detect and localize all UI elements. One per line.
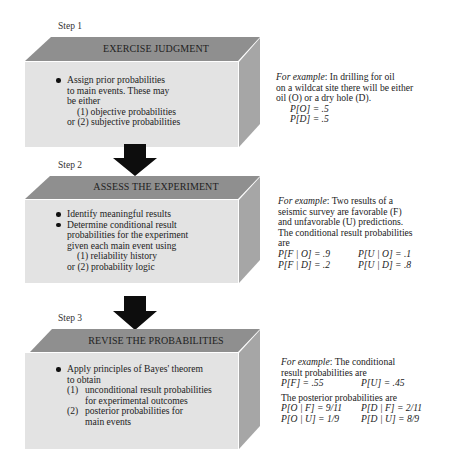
- example-text: : The conditional: [330, 356, 395, 367]
- probability-row: P[F] = .55 P[U] = .45: [281, 378, 422, 389]
- probability-value: P[D | U] = 8/9: [361, 414, 419, 425]
- bullet-text: Apply principles of Bayes' theorem: [67, 363, 203, 374]
- probability-value: P[U | O] = .1: [358, 249, 411, 260]
- probability-row: P[F | D] = .2 P[U | D] = .8: [278, 260, 413, 271]
- item-number: (2): [67, 406, 85, 417]
- example-text: : Two results of a: [327, 195, 393, 206]
- probability-value: P[O | U] = 1/9: [281, 414, 361, 425]
- step-1-example: For example: In drilling for oil on a wi…: [276, 72, 413, 125]
- item-text: posterior probabilities for: [85, 405, 183, 416]
- item-number: (1): [67, 385, 85, 396]
- step-3-box-side-face: [239, 330, 260, 449]
- bullet-text: Determine conditional result: [67, 219, 177, 230]
- step-3-body: Apply principles of Bayes' theorem to ob…: [55, 364, 212, 428]
- step-3-bullet-1: Apply principles of Bayes' theorem: [55, 364, 212, 375]
- probability-value: P[F | O] = .9: [278, 249, 358, 260]
- probability-value: P[D] = .5: [276, 114, 413, 125]
- arrow-down-icon: [113, 144, 157, 176]
- example-lead: For example: [276, 71, 325, 82]
- step-1-title: EXERCISE JUDGMENT: [56, 43, 256, 54]
- bullet-text: Identify meaningful results: [67, 208, 171, 219]
- item-text: main events: [55, 417, 212, 428]
- step-1-label: Step 1: [58, 21, 82, 31]
- example-text: : In drilling for oil: [325, 71, 395, 82]
- example-lead: For example: [281, 356, 330, 367]
- option-text: or (2) subjective probabilities: [55, 117, 180, 128]
- example-text: The conditional result probabilities: [278, 228, 413, 239]
- probability-row: P[F | O] = .9 P[U | O] = .1: [278, 249, 413, 260]
- step-2-bullet-2: Determine conditional result: [55, 220, 188, 231]
- numbered-item-2: (2)posterior probabilities for: [55, 406, 212, 417]
- bullet-icon: [56, 212, 61, 217]
- step-2-title: ASSESS THE EXPERIMENT: [56, 181, 256, 192]
- bullet-text: Assign prior probabilities: [67, 74, 165, 85]
- step-1-bullet-1: Assign prior probabilities: [55, 75, 180, 86]
- bullet-icon: [56, 223, 61, 228]
- item-text: unconditional result probabilities: [85, 384, 212, 395]
- step-2-label: Step 2: [58, 160, 82, 170]
- probability-value: P[F | D] = .2: [278, 260, 358, 271]
- step-3-label: Step 3: [58, 313, 82, 323]
- step-2-body: Identify meaningful results Determine co…: [55, 209, 188, 273]
- option-text: or (2) probability logic: [55, 262, 188, 273]
- step-2-example: For example: Two results of a seismic su…: [278, 196, 413, 270]
- probability-value: P[U | D] = .8: [358, 260, 411, 271]
- probability-value: P[U] = .45: [361, 378, 405, 389]
- bullet-icon: [56, 367, 61, 372]
- example-lead: For example: [278, 195, 327, 206]
- step-3-title: REVISE THE PROBABILITIES: [56, 335, 256, 346]
- probability-row: P[O | U] = 1/9 P[D | U] = 8/9: [281, 414, 422, 425]
- arrow-down-icon: [113, 296, 157, 330]
- probability-value: P[F] = .55: [281, 378, 361, 389]
- step-1-body: Assign prior probabilities to main event…: [55, 75, 180, 128]
- bullet-icon: [56, 78, 61, 83]
- step-3-example: For example: The conditional result prob…: [281, 357, 422, 425]
